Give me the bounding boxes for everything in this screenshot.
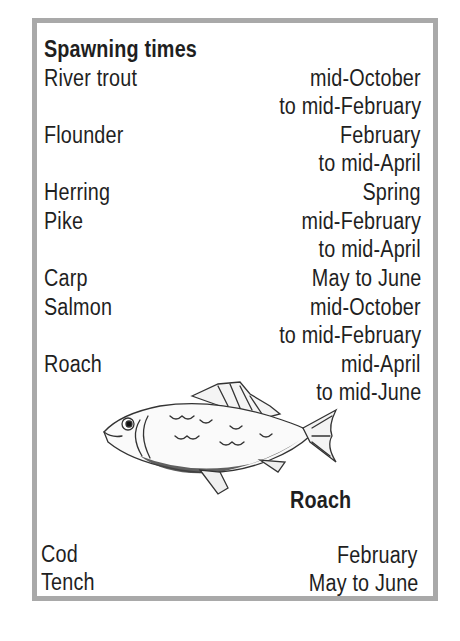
fish-name: Carp — [44, 264, 88, 292]
spawn-time: to mid-April — [319, 149, 421, 177]
fish-name: Salmon — [44, 293, 112, 321]
spawn-time: mid-April — [341, 350, 421, 378]
spawn-time: mid-February — [301, 207, 421, 235]
spawn-time: February — [337, 541, 418, 569]
page-title: Spawning times — [44, 35, 197, 63]
spawn-time: February — [340, 121, 421, 149]
spawn-time: May to June — [311, 264, 421, 292]
spawn-time: Spring — [363, 178, 421, 206]
fish-name: Herring — [44, 178, 110, 206]
fish-name: Tench — [41, 568, 95, 596]
fish-name: Flounder — [44, 121, 123, 149]
roach-fish-icon — [100, 376, 345, 498]
spawn-time: to mid-February — [279, 321, 421, 349]
spawn-time: mid-October — [310, 64, 421, 92]
spawn-time: to mid-February — [279, 92, 421, 120]
spawn-time: to mid-April — [319, 235, 421, 263]
fish-name: River trout — [44, 64, 137, 92]
fish-name: Pike — [44, 207, 83, 235]
illustration-caption: Roach — [290, 486, 351, 514]
spawn-time: mid-October — [310, 293, 421, 321]
fish-name: Roach — [44, 350, 102, 378]
spawn-time: May to June — [308, 569, 418, 597]
fish-name: Cod — [41, 540, 78, 568]
